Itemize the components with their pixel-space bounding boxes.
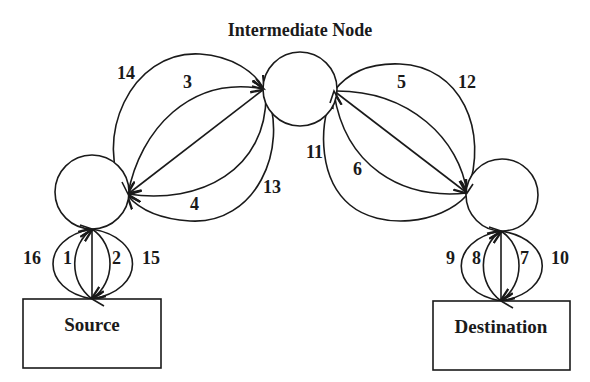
intermediate-node (263, 52, 337, 126)
edge-label-8: 8 (472, 248, 481, 268)
edge-2 (92, 229, 110, 299)
edge-label-12: 12 (458, 72, 476, 92)
intermediate-node-title: Intermediate Node (228, 20, 372, 40)
edge-label-16: 16 (23, 248, 41, 268)
edge-9 (461, 231, 501, 301)
edge-label-3: 3 (183, 72, 192, 92)
edge-16 (53, 229, 92, 299)
edge-label-15: 15 (142, 248, 160, 268)
edge-label-7: 7 (520, 248, 529, 268)
edge-label-14: 14 (117, 63, 135, 83)
edge-8 (483, 231, 501, 301)
edge-4 (128, 92, 266, 196)
edge-1 (75, 229, 92, 299)
edge-11 (324, 95, 467, 221)
destination-label: Destination (455, 316, 548, 337)
edge-label-2: 2 (112, 248, 121, 268)
network-path-diagram: Intermediate Node (0, 0, 590, 382)
source-label: Source (64, 314, 120, 335)
edge-label-4: 4 (190, 194, 199, 214)
edge-label-5: 5 (397, 72, 406, 92)
edge-label-13: 13 (263, 177, 281, 197)
edge-label-6: 6 (353, 159, 362, 179)
edge-7 (501, 231, 519, 301)
source-relay-node (55, 155, 129, 229)
edge-label-1: 1 (63, 248, 72, 268)
edge-label-11: 11 (306, 142, 323, 162)
edge-label-10: 10 (551, 248, 569, 268)
edge-label-9: 9 (446, 248, 455, 268)
destination-relay-node (466, 159, 538, 231)
edge-13 (128, 90, 274, 221)
